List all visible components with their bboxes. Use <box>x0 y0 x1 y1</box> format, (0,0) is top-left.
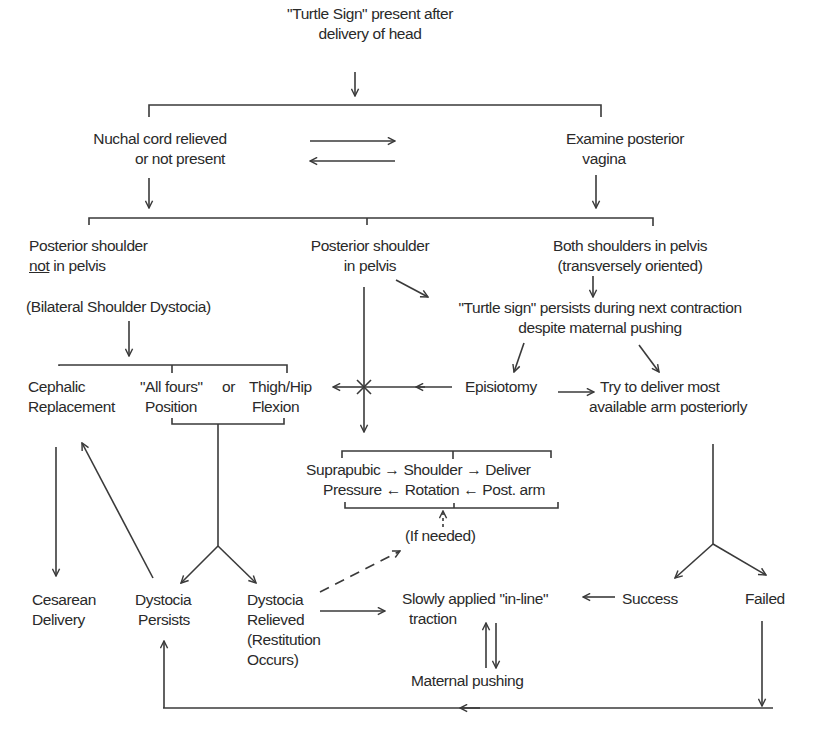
node-nuchal-cord: Nuchal cord relieved or not present <box>70 129 250 169</box>
node-line: Thigh/Hip <box>249 377 312 397</box>
node-line: despite maternal pushing <box>430 318 770 338</box>
node-line: "All fours" <box>140 377 203 397</box>
node-line: Replacement <box>28 397 115 417</box>
node-try-deliver-arm: Try to deliver most available arm poster… <box>600 377 747 417</box>
node-success: Success <box>622 589 678 609</box>
post-arm-label: Post. arm <box>482 481 545 498</box>
node-line: Failed <box>745 589 785 609</box>
node-line: (Bilateral Shoulder Dystocia) <box>26 297 211 317</box>
node-line: (If needed) <box>405 526 476 546</box>
node-bilateral-shoulder-dystocia: (Bilateral Shoulder Dystocia) <box>26 297 211 317</box>
node-cephalic-replacement: Cephalic Replacement <box>28 377 115 417</box>
node-line: Cesarean <box>32 590 96 610</box>
node-line: vagina <box>545 149 705 169</box>
rotation-label: Rotation <box>405 481 460 498</box>
node-in-line-traction: Slowly applied "in-line" traction <box>402 589 548 629</box>
node-line: Relieved <box>247 610 321 630</box>
node-posterior-shoulder-not-in-pelvis: Posterior shoulder not in pelvis <box>29 236 148 276</box>
node-turtle-sign-start: "Turtle Sign" present after delivery of … <box>270 4 470 44</box>
node-line: or not present <box>70 149 250 169</box>
node-line: Pressure ← Rotation ← Post. arm <box>306 480 545 500</box>
node-line: Posterior shoulder <box>29 236 148 256</box>
node-both-shoulders-in-pelvis: Both shoulders in pelvis (transversely o… <box>535 236 725 276</box>
node-dystocia-persists: Dystocia Persists <box>135 590 191 630</box>
node-if-needed: (If needed) <box>405 526 476 546</box>
shoulder-label: Shoulder <box>403 461 462 478</box>
arrow-left-icon: ← <box>463 481 478 498</box>
node-posterior-shoulder-in-pelvis: Posterior shoulder in pelvis <box>295 236 445 276</box>
node-line: Examine posterior <box>545 129 705 149</box>
node-line: Success <box>622 589 678 609</box>
node-line: Dystocia <box>247 590 321 610</box>
pressure-label: Pressure <box>323 481 382 498</box>
node-line: Flexion <box>249 397 312 417</box>
node-line: Posterior shoulder <box>295 236 445 256</box>
deliver-label: Deliver <box>485 461 530 478</box>
node-line: in pelvis <box>295 256 445 276</box>
node-line-rest: in pelvis <box>49 257 105 274</box>
node-line: (Restitution <box>247 630 321 650</box>
node-line: (transversely oriented) <box>535 256 725 276</box>
node-line: Position <box>140 397 203 417</box>
connector-lines <box>0 0 820 741</box>
node-line: "Turtle Sign" present after <box>270 4 470 24</box>
node-line: Occurs) <box>247 650 321 670</box>
node-line: Persists <box>135 610 191 630</box>
node-all-fours-position: "All fours" Position <box>140 377 203 417</box>
arrow-right-icon: → <box>466 461 481 478</box>
node-line: Nuchal cord relieved <box>70 129 250 149</box>
node-line: Suprapubic → Shoulder → Deliver <box>306 460 545 480</box>
node-line: Try to deliver most <box>600 377 747 397</box>
node-line: delivery of head <box>270 24 470 44</box>
node-turtle-sign-persists: "Turtle sign" persists during next contr… <box>430 298 770 338</box>
node-line: Slowly applied "in-line" <box>402 589 548 609</box>
node-maternal-pushing: Maternal pushing <box>411 671 524 691</box>
node-line: available arm posteriorly <box>589 397 747 417</box>
node-line: not in pelvis <box>29 256 148 276</box>
node-examine-posterior-vagina: Examine posterior vagina <box>545 129 705 169</box>
node-dystocia-relieved: Dystocia Relieved (Restitution Occurs) <box>247 590 321 670</box>
node-line: Both shoulders in pelvis <box>535 236 725 256</box>
node-episiotomy: Episiotomy <box>465 377 537 397</box>
arrow-left-icon: ← <box>386 481 401 498</box>
node-line: or <box>222 377 235 397</box>
node-thigh-hip-flexion: Thigh/Hip Flexion <box>249 377 312 417</box>
suprapubic-label: Suprapubic <box>306 461 380 478</box>
node-line: Cephalic <box>28 377 115 397</box>
node-line: Maternal pushing <box>411 671 524 691</box>
node-line: traction <box>402 609 548 629</box>
node-cesarean-delivery: Cesarean Delivery <box>32 590 96 630</box>
node-line: Dystocia <box>135 590 191 610</box>
node-suprapubic-pressure: Suprapubic → Shoulder → Deliver Pressure… <box>306 460 545 500</box>
node-failed: Failed <box>745 589 785 609</box>
arrow-right-icon: → <box>384 461 399 478</box>
node-line: Delivery <box>32 610 96 630</box>
underlined-not: not <box>29 257 49 274</box>
node-line: "Turtle sign" persists during next contr… <box>430 298 770 318</box>
flowchart-canvas: "Turtle Sign" present after delivery of … <box>0 0 820 741</box>
node-or-label: or <box>222 377 235 397</box>
node-line: Episiotomy <box>465 377 537 397</box>
